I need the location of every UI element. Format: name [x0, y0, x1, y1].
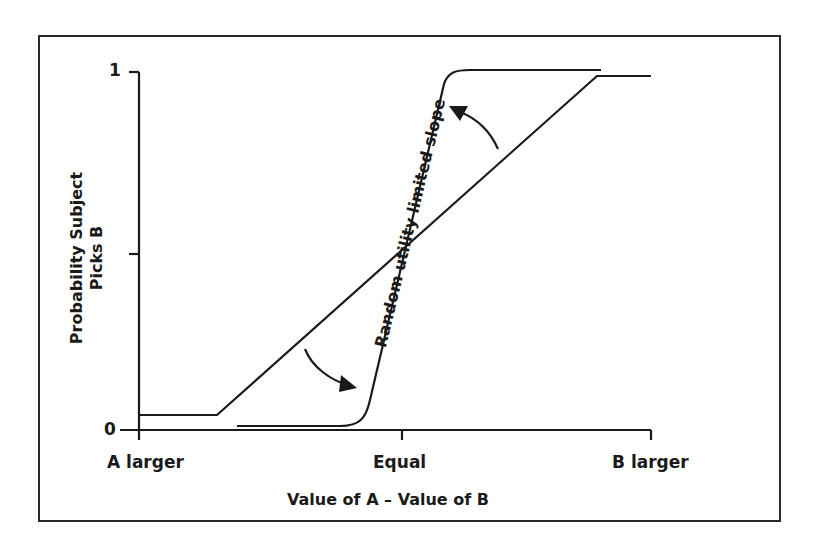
y-tick-0: 0 [104, 419, 116, 439]
x-tick-equal: Equal [373, 452, 426, 472]
series-random-utility-curve [237, 70, 601, 426]
chart-plot [0, 0, 819, 558]
y-axis-title-line2: Picks B [87, 163, 107, 353]
y-axis-title: Probability Subject Picks B [67, 163, 107, 353]
x-tick-b-larger: B larger [612, 452, 689, 472]
x-axis [120, 430, 651, 440]
y-axis [129, 72, 139, 440]
y-tick-1: 1 [109, 60, 121, 80]
x-axis-title: Value of A – Value of B [287, 490, 489, 509]
arrow-lower-head-icon [339, 375, 357, 392]
x-tick-a-larger: A larger [107, 452, 184, 472]
y-axis-title-line1: Probability Subject [67, 163, 87, 353]
arrow-upper-icon [460, 112, 498, 149]
